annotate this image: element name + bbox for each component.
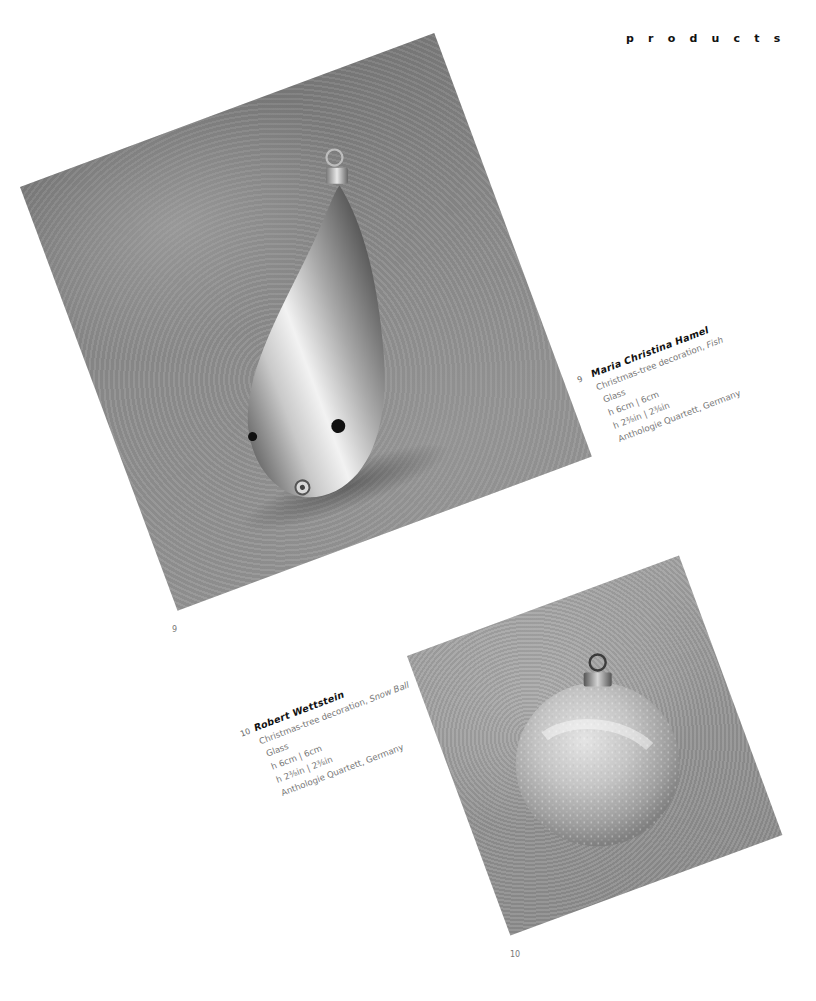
product-caption-10: 10 Robert Wettstein Christmas-tree decor… [252,665,431,801]
item-number: 9 [575,372,585,387]
figure-number: 9 [172,625,177,634]
product-photo-snow-ball-ornament [407,555,782,935]
product-photo-fish-ornament [20,33,592,611]
section-title: products [626,32,795,45]
glitter-snow-ball-ornament-icon [407,555,782,935]
figure-number: 10 [510,950,520,959]
product-caption-9: 9 Maria Christina Hamel Christmas-tree d… [589,320,745,447]
item-number: 10 [238,725,253,742]
silver-teardrop-fish-ornament-icon [20,33,592,611]
